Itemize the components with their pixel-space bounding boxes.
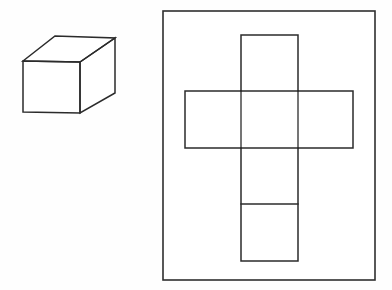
figure-root	[0, 0, 392, 290]
cube-front-face-fill	[23, 61, 80, 113]
diagram-canvas	[0, 0, 392, 290]
net-panel-border	[163, 11, 375, 280]
net-panel	[163, 11, 375, 280]
cube-figure	[23, 36, 115, 113]
